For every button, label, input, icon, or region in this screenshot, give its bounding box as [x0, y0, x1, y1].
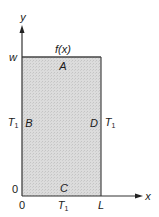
boundary-value-bottom-base: T — [58, 199, 65, 211]
boundary-value-bottom: T1 — [58, 200, 69, 212]
x-tick-L: L — [98, 200, 104, 211]
boundary-value-left: T1 — [8, 117, 19, 129]
boundary-value-bottom-sub: 1 — [64, 205, 68, 212]
side-label-left: B — [25, 118, 32, 129]
y-tick-origin: 0 — [12, 184, 18, 195]
boundary-value-left-sub: 1 — [14, 122, 18, 129]
boundary-value-right: T1 — [105, 117, 116, 129]
y-axis-label: y — [20, 12, 26, 23]
boundary-value-right-base: T — [105, 116, 112, 128]
x-tick-origin: 0 — [19, 200, 25, 211]
diagram-canvas — [0, 0, 159, 217]
side-label-bottom: C — [60, 183, 68, 194]
diagram: y x w 0 0 L f(x) A B D C T1 T1 T1 — [0, 0, 159, 217]
x-axis-arrow-icon — [135, 194, 143, 199]
side-label-top: A — [59, 61, 66, 72]
side-label-right: D — [90, 118, 98, 129]
y-tick-w: w — [9, 52, 17, 63]
y-axis-arrow-icon — [20, 25, 25, 33]
top-function-label: f(x) — [55, 44, 71, 55]
boundary-value-right-sub: 1 — [111, 122, 115, 129]
x-axis-label: x — [145, 191, 151, 202]
boundary-value-left-base: T — [8, 116, 15, 128]
